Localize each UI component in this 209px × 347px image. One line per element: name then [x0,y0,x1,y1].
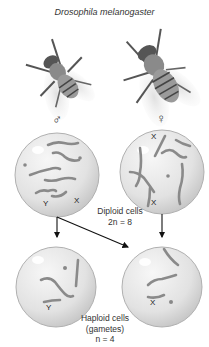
female-symbol: ♀ [151,111,171,126]
haploid-count-text: n = 4 [65,334,145,345]
haploid-y-chromosome-label: Y [46,303,51,312]
male-diploid-cell [15,133,99,217]
male-y-chromosome-label: Y [43,199,48,208]
gametes-text: (gametes) [65,324,145,335]
female-diploid-cell [120,130,204,214]
haploid-x-chromosome-label: X [150,298,155,307]
diploid-cells-text: Diploid cells [80,206,160,217]
diploid-count-text: 2n = 8 [80,217,160,228]
haploid-cells-text: Haploid cells [65,313,145,324]
male-x-chromosome-label: X [74,196,79,205]
meiosis-diagram [0,0,209,347]
haploid-label: Haploid cells (gametes) n = 4 [65,313,145,345]
male-symbol: ♂ [47,112,67,127]
diploid-label: Diploid cells 2n = 8 [80,206,160,227]
female-x1-chromosome-label: X [151,132,156,141]
